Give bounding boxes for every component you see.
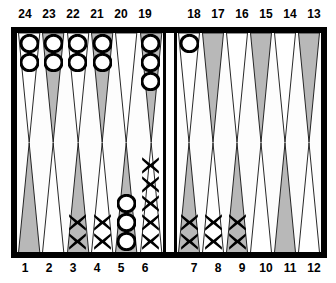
white-checker[interactable] [141, 53, 160, 72]
point-19[interactable] [139, 33, 163, 143]
dark-checker[interactable] [180, 213, 199, 232]
white-checker[interactable] [68, 34, 87, 53]
backgammon-board-image: 242322212019181716151413 123456789101112 [0, 0, 336, 283]
dark-checker[interactable] [93, 213, 112, 232]
dark-checker[interactable] [93, 232, 112, 251]
checker-stack-7[interactable] [177, 213, 201, 251]
point-2[interactable] [41, 143, 65, 253]
checker-stack-18[interactable] [177, 34, 201, 53]
checker-stack-3[interactable] [66, 213, 90, 251]
point-label-bottom-8: 8 [207, 260, 229, 276]
dark-checker[interactable] [68, 213, 87, 232]
checker-stack-24[interactable] [17, 34, 41, 72]
white-checker[interactable] [44, 53, 63, 72]
white-checker[interactable] [44, 34, 63, 53]
checker-stack-6[interactable] [139, 156, 163, 251]
point-5[interactable] [114, 143, 138, 253]
point-triangle-16 [225, 33, 249, 143]
white-checker[interactable] [93, 34, 112, 53]
point-4[interactable] [90, 143, 114, 253]
white-checker[interactable] [180, 34, 199, 53]
white-checker[interactable] [117, 232, 136, 251]
point-1[interactable] [17, 143, 41, 253]
point-label-bottom-7: 7 [183, 260, 205, 276]
point-14[interactable] [273, 33, 297, 143]
checker-stack-19[interactable] [139, 34, 163, 91]
white-checker[interactable] [141, 72, 160, 91]
dark-checker[interactable] [141, 194, 160, 213]
dark-checker[interactable] [204, 232, 223, 251]
point-label-top-17: 17 [207, 6, 229, 22]
checker-stack-9[interactable] [225, 213, 249, 251]
white-checker[interactable] [117, 194, 136, 213]
point-24[interactable] [17, 33, 41, 143]
point-20[interactable] [114, 33, 138, 143]
point-7[interactable] [177, 143, 201, 253]
point-13[interactable] [297, 33, 321, 143]
point-10[interactable] [249, 143, 273, 253]
point-label-top-21: 21 [86, 6, 108, 22]
dark-checker[interactable] [228, 213, 247, 232]
point-12[interactable] [297, 143, 321, 253]
point-16[interactable] [225, 33, 249, 143]
checker-stack-4[interactable] [90, 213, 114, 251]
point-label-bottom-12: 12 [303, 260, 325, 276]
point-label-top-18: 18 [183, 6, 205, 22]
point-23[interactable] [41, 33, 65, 143]
point-label-top-20: 20 [110, 6, 132, 22]
point-21[interactable] [90, 33, 114, 143]
point-label-bottom-3: 3 [62, 260, 84, 276]
point-triangle-15 [249, 33, 273, 143]
dark-checker[interactable] [180, 232, 199, 251]
point-22[interactable] [66, 33, 90, 143]
point-11[interactable] [273, 143, 297, 253]
point-9[interactable] [225, 143, 249, 253]
dark-checker[interactable] [141, 232, 160, 251]
point-8[interactable] [201, 143, 225, 253]
point-label-bottom-4: 4 [86, 260, 108, 276]
point-15[interactable] [249, 33, 273, 143]
point-label-top-16: 16 [231, 6, 253, 22]
quadrant-top-left [17, 33, 163, 143]
point-label-top-22: 22 [62, 6, 84, 22]
point-3[interactable] [66, 143, 90, 253]
point-triangle-10 [249, 143, 273, 253]
point-label-bottom-11: 11 [279, 260, 301, 276]
point-label-bottom-5: 5 [110, 260, 132, 276]
point-triangle-14 [273, 33, 297, 143]
checker-stack-5[interactable] [114, 194, 138, 251]
point-label-bottom-1: 1 [14, 260, 36, 276]
point-triangle-2 [41, 143, 65, 253]
point-17[interactable] [201, 33, 225, 143]
point-triangle-12 [297, 143, 321, 253]
point-triangle-17 [201, 33, 225, 143]
checker-stack-8[interactable] [201, 213, 225, 251]
white-checker[interactable] [93, 53, 112, 72]
point-label-bottom-2: 2 [38, 260, 60, 276]
point-label-bottom-6: 6 [134, 260, 156, 276]
dark-checker[interactable] [141, 175, 160, 194]
board-bar[interactable] [163, 33, 177, 252]
white-checker[interactable] [141, 34, 160, 53]
white-checker[interactable] [117, 213, 136, 232]
quadrant-bottom-right [177, 143, 321, 253]
dark-checker[interactable] [141, 213, 160, 232]
checker-stack-21[interactable] [90, 34, 114, 72]
quadrant-top-right [177, 33, 321, 143]
dark-checker[interactable] [68, 232, 87, 251]
dark-checker[interactable] [204, 213, 223, 232]
white-checker[interactable] [68, 53, 87, 72]
point-label-top-14: 14 [279, 6, 301, 22]
dark-checker[interactable] [228, 232, 247, 251]
checker-stack-22[interactable] [66, 34, 90, 72]
white-checker[interactable] [20, 53, 39, 72]
white-checker[interactable] [20, 34, 39, 53]
checker-stack-23[interactable] [41, 34, 65, 72]
bottom-point-labels: 123456789101112 [0, 260, 336, 278]
dark-checker[interactable] [141, 156, 160, 175]
point-triangle-13 [297, 33, 321, 143]
point-6[interactable] [139, 143, 163, 253]
playfield [17, 33, 321, 252]
board-frame [11, 27, 327, 258]
point-18[interactable] [177, 33, 201, 143]
